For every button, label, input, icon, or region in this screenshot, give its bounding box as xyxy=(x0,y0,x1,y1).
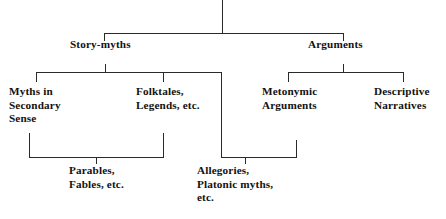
node-allegories-platonic-myths: Allegories, Platonic myths, etc. xyxy=(197,164,273,205)
arguments-children-bar xyxy=(288,72,404,73)
node-myths-in-secondary-sense: Myths in Secondary Sense xyxy=(9,85,61,126)
tier1-horizontal-line xyxy=(104,33,344,34)
node-parables-fables: Parables, Fables, etc. xyxy=(69,164,124,191)
node-story-myths: Story-myths xyxy=(70,38,131,52)
node-arguments: Arguments xyxy=(308,38,363,52)
allegories-bracket-bottom-line xyxy=(221,157,297,158)
taxonomy-tree-diagram: Story-myths Arguments Myths in Secondary… xyxy=(0,0,446,219)
story-myths-children-bar xyxy=(36,72,222,73)
node-metonymic-arguments: Metonymic Arguments xyxy=(262,85,317,112)
myths-secondary-drop-line xyxy=(36,72,37,82)
descriptive-drop-line xyxy=(403,72,404,82)
allegories-bracket-right-line xyxy=(296,140,297,158)
parables-bracket-right-line xyxy=(163,133,164,158)
parables-stem-line xyxy=(96,157,97,164)
allegories-stem-line xyxy=(245,157,246,164)
parables-bracket-left-line xyxy=(29,133,30,158)
folktales-to-allegories-long-line xyxy=(221,72,222,158)
node-folktales-legends: Folktales, Legends, etc. xyxy=(136,85,200,112)
root-stem-line xyxy=(222,0,223,34)
folktales-drop-line xyxy=(163,72,164,82)
node-descriptive-narratives: Descriptive Narratives xyxy=(374,85,430,112)
metonymic-drop-line xyxy=(288,72,289,82)
